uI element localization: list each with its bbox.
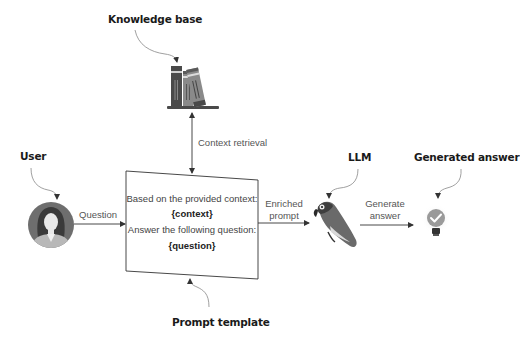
- generated-answer-callout: [438, 169, 461, 198]
- enriched-prompt-line2: prompt: [260, 210, 308, 222]
- prompt-template-label: Prompt template: [172, 316, 270, 328]
- generate-answer-line1: Generate: [360, 198, 410, 210]
- parrot-icon: [314, 202, 357, 247]
- user-callout: [31, 168, 57, 199]
- generate-answer-line2: answer: [360, 210, 410, 222]
- llm-label: LLM: [348, 151, 371, 163]
- user-label: User: [20, 150, 46, 162]
- enriched-prompt-line1: Enriched: [260, 198, 308, 210]
- template-question-placeholder: {question}: [126, 240, 258, 251]
- question-label: Question: [79, 209, 117, 221]
- template-line-context-intro: Based on the provided context:: [126, 193, 258, 204]
- lightbulb-check-icon: [421, 204, 451, 236]
- knowledge-base-callout: [135, 30, 177, 62]
- llm-callout: [329, 169, 358, 198]
- template-line-question-intro: Answer the following question:: [126, 224, 258, 235]
- knowledge-base-label: Knowledge base: [108, 13, 202, 25]
- generated-answer-label: Generated answer: [414, 151, 520, 163]
- enriched-prompt-label: Enriched prompt: [260, 198, 308, 222]
- prompt-template-callout: [190, 279, 209, 307]
- template-context-placeholder: {context}: [126, 208, 258, 219]
- books-icon: [167, 66, 219, 109]
- context-retrieval-label: Context retrieval: [198, 137, 267, 149]
- generate-answer-label: Generate answer: [360, 198, 410, 222]
- user-avatar-icon: [28, 202, 74, 250]
